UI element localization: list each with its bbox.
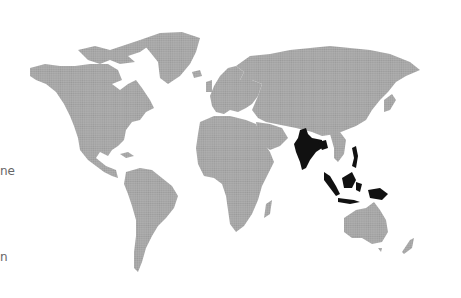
madagascar	[264, 200, 272, 218]
world-map	[0, 0, 461, 298]
greenland	[140, 32, 200, 84]
asia	[236, 46, 420, 136]
south-america	[124, 168, 178, 272]
new-guinea	[368, 188, 388, 200]
sulawesi	[356, 182, 362, 192]
australia	[344, 202, 388, 244]
iceland	[192, 70, 202, 78]
philippines	[352, 146, 358, 168]
arctic-islands	[78, 40, 150, 64]
japan	[384, 94, 396, 112]
uk	[206, 80, 212, 92]
land	[30, 32, 420, 272]
caribbean	[120, 152, 134, 158]
java	[338, 198, 360, 204]
indochina	[330, 132, 346, 162]
tasmania	[378, 248, 382, 252]
sumatra	[324, 172, 340, 196]
borneo	[342, 172, 356, 188]
north-america	[30, 64, 154, 178]
new-zealand	[402, 238, 414, 254]
